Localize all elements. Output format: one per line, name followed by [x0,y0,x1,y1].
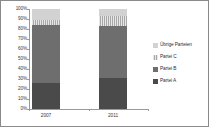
legend-item[interactable]: Übrige Parteien [153,39,208,51]
x-tick-mark [29,109,30,111]
legend-swatch-icon [153,55,158,60]
bar-segment-partei-c [99,16,127,26]
y-tick-label: 80% [3,26,27,31]
bar-segment-partei-a [99,78,127,109]
bar-segment-übrige-parteien [32,9,60,20]
legend-label: Partei A [160,78,176,84]
y-tick-label: 30% [3,76,27,81]
legend-label: Partei C [160,54,177,60]
y-tick-label: 60% [3,46,27,51]
bar-segment-übrige-parteien [99,9,127,16]
x-tick-label: 2011 [93,113,133,119]
y-tick-label: 20% [3,86,27,91]
x-tick-mark [89,109,90,111]
legend-swatch-icon [153,43,158,48]
bar-segment-partei-b [99,26,127,78]
y-tick-label: 100% [3,6,27,11]
y-tick-label: 0% [3,106,27,111]
bar-segment-partei-a [32,83,60,109]
bar-segment-partei-c [32,20,60,25]
y-tick-label: 50% [3,56,27,61]
bar-2007 [32,9,60,109]
bar-2011 [99,9,127,109]
x-tick-label: 2007 [26,113,66,119]
legend-swatch-icon [153,79,158,84]
legend-label: Partei B [160,66,176,72]
legend-swatch-icon [153,67,158,72]
y-tick-label: 40% [3,66,27,71]
y-axis: 100%90%80%70%60%50%40%30%20%10%0% [1,1,27,127]
legend-item[interactable]: Partei C [153,51,208,63]
legend-label: Übrige Parteien [160,42,192,48]
x-tick-mark [148,109,149,111]
legend-item[interactable]: Partei B [153,63,208,75]
chart-legend: Übrige ParteienPartei CPartei BPartei A [153,39,208,87]
stacked-bar-chart: 100%90%80%70%60%50%40%30%20%10%0% 200720… [0,0,209,127]
y-tick-label: 10% [3,96,27,101]
bar-segment-partei-b [32,25,60,83]
y-tick-label: 90% [3,16,27,21]
y-tick-label: 70% [3,36,27,41]
plot-area [30,9,146,109]
legend-item[interactable]: Partei A [153,75,208,87]
